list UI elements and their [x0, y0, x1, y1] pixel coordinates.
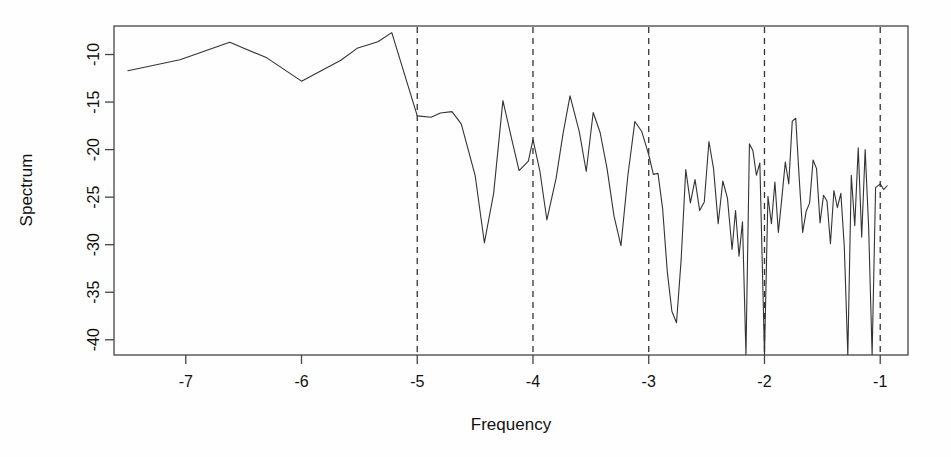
y-tick-label: -15	[86, 90, 103, 113]
y-tick-label: -20	[86, 138, 103, 161]
plot-frame-box	[114, 26, 908, 355]
y-axis-ticks: -40-35-30-25-20-15-10	[86, 43, 115, 351]
y-tick-label: -25	[86, 185, 103, 208]
x-tick-label: -5	[410, 373, 424, 390]
x-tick-label: -3	[642, 373, 656, 390]
y-tick-label: -40	[86, 328, 103, 351]
x-tick-label: -6	[294, 373, 308, 390]
spectrum-data-line	[128, 33, 887, 355]
y-tick-label: -30	[86, 233, 103, 256]
y-axis-title: Spectrum	[17, 154, 36, 227]
x-tick-label: -1	[873, 373, 887, 390]
x-tick-label: -4	[526, 373, 540, 390]
spectrum-chart-figure: -7-6-5-4-3-2-1 -40-35-30-25-20-15-10 Fre…	[0, 0, 951, 457]
plot-canvas: -7-6-5-4-3-2-1 -40-35-30-25-20-15-10 Fre…	[0, 0, 951, 457]
x-tick-label: -7	[179, 373, 193, 390]
x-axis-title: Frequency	[471, 415, 552, 434]
x-tick-label: -2	[757, 373, 771, 390]
x-axis-ticks: -7-6-5-4-3-2-1	[179, 355, 888, 390]
y-tick-label: -10	[86, 43, 103, 66]
y-tick-label: -35	[86, 281, 103, 304]
